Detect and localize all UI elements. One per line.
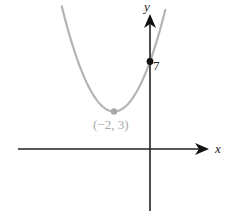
- y-intercept-label: 7: [153, 58, 160, 73]
- x-axis-label: x: [214, 141, 221, 156]
- vertex-point: [111, 108, 117, 114]
- y-axis-label: y: [142, 0, 150, 14]
- vertex-label: (−2, 3): [93, 117, 129, 132]
- graph: x y (−2, 3) 7: [0, 0, 235, 221]
